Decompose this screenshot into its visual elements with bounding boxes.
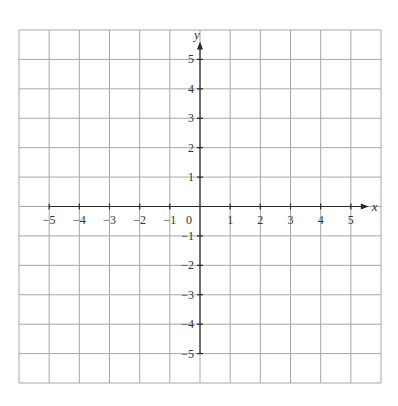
y-tick-label: 3 — [188, 111, 194, 125]
x-axis-arrow-icon — [361, 204, 369, 210]
y-tick-label: −4 — [181, 317, 194, 331]
x-tick-label: 2 — [257, 213, 263, 227]
x-axis-label: x — [371, 199, 378, 214]
origin-label: 0 — [186, 213, 192, 227]
x-tick-label: 5 — [348, 213, 354, 227]
x-tick-label: −2 — [133, 213, 146, 227]
y-axis-label: y — [192, 27, 200, 42]
y-tick-label: −3 — [181, 288, 194, 302]
x-tick-label: −1 — [163, 213, 176, 227]
coordinate-grid: −5−4−3−2−11234554321−1−2−3−4−5 x y 0 — [0, 0, 398, 406]
y-tick-label: −2 — [181, 258, 194, 272]
y-tick-label: 5 — [188, 52, 194, 66]
x-tick-label: −3 — [103, 213, 116, 227]
y-tick-label: 2 — [188, 141, 194, 155]
x-tick-label: 3 — [288, 213, 294, 227]
x-tick-label: −5 — [43, 213, 56, 227]
y-tick-label: 4 — [188, 82, 194, 96]
x-tick-label: −4 — [73, 213, 86, 227]
y-tick-label: −5 — [181, 347, 194, 361]
y-tick-label: 1 — [188, 170, 194, 184]
y-tick-label: −1 — [181, 229, 194, 243]
x-tick-label: 1 — [227, 213, 233, 227]
x-tick-label: 4 — [318, 213, 324, 227]
y-axis-arrow-icon — [197, 41, 203, 49]
